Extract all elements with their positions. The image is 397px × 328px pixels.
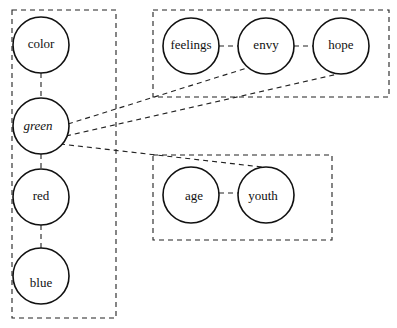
node-youth: youth	[238, 167, 294, 223]
node-age: age	[163, 167, 219, 223]
node-label: age	[185, 188, 203, 203]
node-hope: hope	[313, 18, 369, 74]
node-red: red	[13, 169, 69, 225]
node-label: feelings	[170, 37, 211, 52]
edge-green-hope	[66, 74, 338, 136]
node-feelings: feelings	[163, 18, 219, 74]
diagram-canvas: color green red blue feelings envy hope …	[0, 0, 397, 328]
node-label: green	[23, 118, 52, 133]
node-color: color	[13, 17, 69, 73]
node-label: blue	[30, 275, 53, 290]
node-blue: blue	[13, 248, 69, 304]
node-label: red	[33, 188, 50, 203]
node-label: envy	[253, 37, 279, 52]
node-label: hope	[328, 37, 354, 52]
node-label: color	[28, 36, 55, 51]
edge-green-youth	[60, 144, 262, 167]
node-label: youth	[248, 188, 278, 203]
node-envy: envy	[238, 18, 294, 74]
node-green: green	[13, 98, 69, 154]
